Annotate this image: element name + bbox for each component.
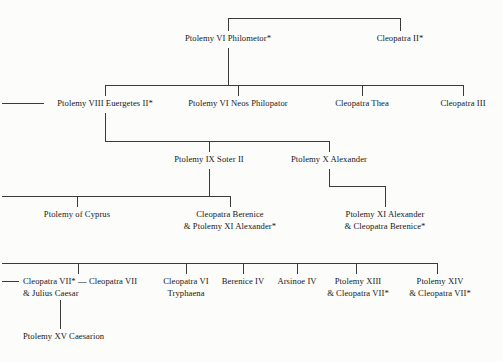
node-label-line2: & Ptolemy XI Alexander* xyxy=(184,221,276,233)
node-ptolemy-xv-caesarion: Ptolemy XV Caesarion xyxy=(23,331,104,343)
node-cleopatra-ii: Cleopatra II* xyxy=(377,33,424,45)
incoming-line-cleopatra-vii xyxy=(2,281,19,282)
sibling-bar-gen3 xyxy=(105,141,330,142)
node-cleopatra-thea: Cleopatra Thea xyxy=(335,98,389,110)
node-label-line1: Cleopatra VII* — Cleopatra VII xyxy=(23,276,137,286)
node-arsinoe-iv: Arsinoe IV xyxy=(277,276,316,288)
node-label: Ptolemy VI Neos Philopator xyxy=(188,98,288,108)
node-label: Cleopatra Thea xyxy=(335,98,389,108)
node-cleopatra-vii-julius-caesar: Cleopatra VII* — Cleopatra VII & Julius … xyxy=(23,276,137,299)
node-ptolemy-ix-soter-ii: Ptolemy IX Soter II xyxy=(174,154,244,166)
sibling-stem-ptolemy-vi-neos xyxy=(238,85,239,96)
sibling-stem-ptolemy-of-cyprus xyxy=(77,196,78,207)
sibling-stem-cleopatra-iii xyxy=(463,85,464,96)
node-label-line2: & Cleopatra VII* xyxy=(409,288,471,300)
descent-ptolemy-viii-to-gen3 xyxy=(105,113,106,142)
node-ptolemy-x-alexander: Ptolemy X Alexander xyxy=(291,154,367,166)
elbow-ptolemy-x-to-xi xyxy=(329,186,386,187)
node-label: Ptolemy XV Caesarion xyxy=(23,331,104,341)
node-ptolemy-xiii: Ptolemy XIII & Cleopatra VII* xyxy=(327,276,389,299)
sibling-stem-cleopatra-vii xyxy=(78,263,79,274)
node-ptolemy-vi-neos-philopator: Ptolemy VI Neos Philopator xyxy=(188,98,288,110)
node-label-line1: Ptolemy XIII xyxy=(335,276,382,286)
node-berenice-iv: Berenice IV xyxy=(222,276,265,288)
node-label-line2: & Cleopatra Berenice* xyxy=(345,221,426,233)
node-label: Berenice IV xyxy=(222,276,265,286)
node-ptolemy-xi-alexander: Ptolemy XI Alexander & Cleopatra Berenic… xyxy=(345,209,426,232)
node-ptolemy-of-cyprus: Ptolemy of Cyprus xyxy=(44,209,110,221)
node-label-line2: & Julius Caesar xyxy=(23,288,137,300)
node-label: Arsinoe IV xyxy=(277,276,316,286)
sibling-stem-berenice-iv xyxy=(243,263,244,274)
sibling-stem-ptolemy-x xyxy=(329,141,330,152)
sibling-bar-gen2 xyxy=(105,85,464,86)
marriage-stem-cleopatra-ii xyxy=(400,18,401,31)
node-label-line1: Cleopatra VI xyxy=(163,276,208,286)
descent-ptolemy-ix-to-gen4 xyxy=(209,169,210,197)
node-cleopatra-vi-tryphaena: Cleopatra VI Tryphaena xyxy=(163,276,208,299)
node-label: Ptolemy IX Soter II xyxy=(174,154,244,164)
node-label-line1: Ptolemy XI Alexander xyxy=(346,209,425,219)
node-ptolemy-viii-euergetes-ii: Ptolemy VIII Euergetes II* xyxy=(57,98,153,110)
node-cleopatra-iii: Cleopatra III xyxy=(440,98,485,110)
descent-to-ptolemy-xi xyxy=(385,186,386,207)
node-label-line1: Cleopatra Berenice xyxy=(196,209,264,219)
node-label: Cleopatra II* xyxy=(377,33,424,43)
sibling-stem-arsinoe-iv xyxy=(297,263,298,274)
node-label-line2: & Cleopatra VII* xyxy=(327,288,389,300)
node-label-line2: Tryphaena xyxy=(163,288,208,300)
node-label: Ptolemy X Alexander xyxy=(291,154,367,164)
node-ptolemy-vi-philometor: Ptolemy VI Philometor* xyxy=(185,33,271,45)
sibling-stem-ptolemy-xiv xyxy=(437,263,438,274)
sibling-stem-cleopatra-berenice xyxy=(230,196,231,207)
sibling-stem-ptolemy-ix xyxy=(209,141,210,152)
sibling-stem-cleopatra-vi-tryphaena xyxy=(186,263,187,274)
node-label: Ptolemy of Cyprus xyxy=(44,209,110,219)
sibling-stem-ptolemy-viii xyxy=(105,85,106,96)
node-cleopatra-berenice: Cleopatra Berenice & Ptolemy XI Alexande… xyxy=(184,209,276,232)
node-label-line1: Ptolemy XIV xyxy=(417,276,464,286)
sibling-stem-ptolemy-xiii xyxy=(356,263,357,274)
family-tree-diagram: Ptolemy VI Philometor* Cleopatra II* Pto… xyxy=(0,0,503,362)
marriage-bar-gen1 xyxy=(228,18,401,19)
sibling-bar-gen4 xyxy=(2,196,231,197)
sibling-stem-cleopatra-thea xyxy=(362,85,363,96)
incoming-line-ptolemy-viii xyxy=(2,103,44,104)
descent-gen1-to-gen2 xyxy=(228,48,229,85)
marriage-stem-ptolemy-vi xyxy=(228,18,229,31)
node-ptolemy-xiv: Ptolemy XIV & Cleopatra VII* xyxy=(409,276,471,299)
descent-to-ptolemy-xv-caesarion xyxy=(60,300,61,329)
sibling-bar-gen5 xyxy=(2,263,438,264)
descent-ptolemy-x-stem xyxy=(329,169,330,187)
node-label: Ptolemy VI Philometor* xyxy=(185,33,271,43)
node-label: Ptolemy VIII Euergetes II* xyxy=(57,98,153,108)
node-label: Cleopatra III xyxy=(440,98,485,108)
